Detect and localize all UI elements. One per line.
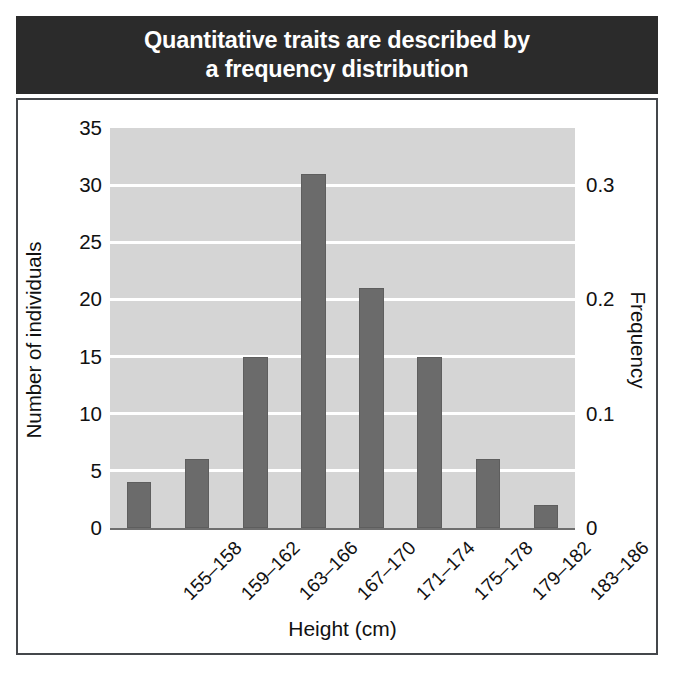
plot-area [110,128,575,528]
x-axis-label: Height (cm) [110,617,575,641]
bars-layer [110,128,575,528]
x-axis-line [110,528,575,530]
bar [243,357,267,528]
bar [127,482,151,528]
bar [534,505,558,528]
figure: Quantitative traits are described by a f… [0,0,674,681]
bar [359,288,383,528]
y-axis-label-left: Number of individuals [22,180,46,500]
chart-title: Quantitative traits are described by a f… [124,26,550,83]
bar [417,357,441,528]
bar [476,459,500,528]
title-banner: Quantitative traits are described by a f… [16,16,658,94]
bar [301,174,325,528]
y-axis-label-right: Frequency [626,180,650,500]
bar [185,459,209,528]
